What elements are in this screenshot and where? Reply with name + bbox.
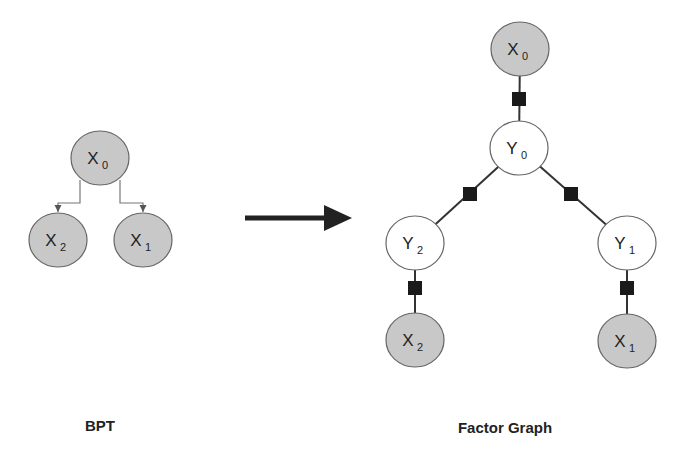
factor-node-Y1-X1 — [620, 281, 634, 295]
fg-node-Y2: Y2 — [386, 216, 444, 270]
node-subscript: 1 — [629, 342, 635, 354]
factor-node-Y0-Y2 — [463, 187, 477, 201]
transform-arrow — [245, 205, 352, 231]
node-subscript: 2 — [417, 244, 423, 256]
hidden-variable-circle — [490, 121, 548, 175]
observed-variable-circle — [114, 213, 172, 267]
factor-node-Y2-X2 — [408, 281, 422, 295]
node-letter: Y — [506, 139, 517, 158]
bpt-diagram: X0X2X1 — [29, 131, 172, 267]
factor-node-Y0-Y1 — [564, 187, 578, 201]
node-letter: Y — [614, 234, 625, 253]
factor-graph-caption: Factor Graph — [458, 419, 552, 436]
observed-variable-circle — [598, 314, 656, 368]
fg-node-Y1: Y1 — [598, 216, 656, 270]
observed-variable-circle — [71, 131, 129, 185]
bpt-node-X1: X1 — [114, 213, 172, 267]
bpt-edge-X0-X2 — [58, 180, 80, 212]
observed-variable-circle — [491, 22, 549, 76]
factor-node-X0-Y0 — [512, 92, 526, 106]
node-subscript: 0 — [521, 149, 527, 161]
node-subscript: 0 — [102, 159, 108, 171]
bpt-node-X0: X0 — [71, 131, 129, 185]
bpt-node-X2: X2 — [29, 213, 87, 267]
node-subscript: 2 — [60, 241, 66, 253]
hidden-variable-circle — [386, 216, 444, 270]
fg-node-X1: X1 — [598, 314, 656, 368]
fg-node-X2: X2 — [386, 313, 444, 367]
node-subscript: 2 — [417, 341, 423, 353]
bpt-caption: BPT — [85, 417, 115, 434]
observed-variable-circle — [386, 313, 444, 367]
node-letter: X — [402, 331, 413, 350]
arrow-head-icon — [324, 205, 352, 231]
node-subscript: 1 — [629, 244, 635, 256]
bpt-edge-X0-X1 — [120, 180, 143, 212]
observed-variable-circle — [29, 213, 87, 267]
hidden-variable-circle — [598, 216, 656, 270]
factor-graph-diagram: X0Y0Y2Y1X2X1 — [386, 22, 656, 368]
node-letter: X — [507, 40, 518, 59]
node-letter: Y — [402, 234, 413, 253]
node-letter: X — [87, 149, 98, 168]
fg-node-Y0: Y0 — [490, 121, 548, 175]
node-subscript: 0 — [522, 50, 528, 62]
node-subscript: 1 — [145, 241, 151, 253]
diagram-canvas: X0X2X1 X0Y0Y2Y1X2X1 — [0, 0, 680, 467]
fg-node-X0: X0 — [491, 22, 549, 76]
node-letter: X — [614, 332, 625, 351]
node-letter: X — [45, 231, 56, 250]
node-letter: X — [130, 231, 141, 250]
